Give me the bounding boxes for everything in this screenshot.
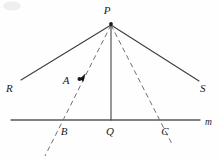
geometry-figure-canvas: P R S A B Q C m (0, 0, 220, 161)
label-m: m (205, 117, 212, 127)
label-r: R (5, 82, 13, 94)
label-q: Q (106, 125, 114, 137)
vertex-point-p-dot (109, 22, 113, 26)
label-c: C (161, 125, 169, 137)
scan-artifact-topleft (3, 2, 21, 11)
label-b: B (61, 125, 68, 137)
label-p: P (103, 4, 111, 16)
geometry-diagram: P R S A B Q C m (0, 0, 220, 161)
label-a: A (62, 74, 70, 86)
label-s: S (200, 82, 206, 94)
